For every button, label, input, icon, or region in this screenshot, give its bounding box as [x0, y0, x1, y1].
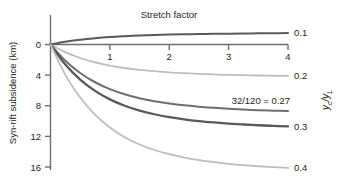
right-axis-title-sub-l: L	[326, 90, 333, 94]
y-tick-label-4: 4	[36, 70, 41, 81]
y-tick-label-8: 8	[36, 100, 41, 111]
x-tick-label-2: 2	[167, 51, 172, 62]
chart-canvas: Stretch factor 0481216 1234 0.10.232/120…	[0, 0, 345, 179]
chart-title: Stretch factor	[141, 9, 198, 20]
y-tick-label-16: 16	[30, 162, 41, 173]
x-tick-label-4: 4	[285, 51, 290, 62]
series-label-0.27: 32/120 = 0.27	[232, 95, 290, 106]
y-tick-label-12: 12	[30, 131, 41, 142]
series-label-0.1: 0.1	[294, 27, 307, 38]
y-tick-label-0: 0	[36, 39, 41, 50]
x-tick-label-3: 3	[226, 51, 231, 62]
series-label-0.2: 0.2	[294, 70, 307, 81]
x-tick-label-1: 1	[107, 51, 112, 62]
series-label-0.3: 0.3	[294, 121, 307, 132]
series-label-0.4: 0.4	[294, 162, 307, 173]
y-axis-title: Syn-rift subsidence (km)	[7, 42, 18, 144]
chart-figure: Stretch factor 0481216 1234 0.10.232/120…	[0, 0, 345, 179]
